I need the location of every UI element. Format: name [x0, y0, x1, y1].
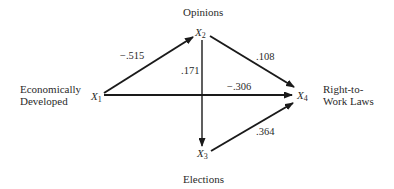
coef-x2-x4: .108: [256, 51, 274, 62]
x4-label-line1: Right-to-: [323, 83, 363, 95]
edge-x2-x4: [210, 36, 294, 87]
node-x2: X2: [195, 26, 206, 42]
x1-label-line2: Developed: [20, 95, 68, 107]
node-x3-index: 3: [204, 152, 208, 161]
node-x1: X1: [91, 90, 102, 106]
node-x3: X3: [197, 147, 208, 163]
edge-x3-x4: [211, 103, 293, 151]
node-x1-symbol: X: [91, 90, 98, 102]
node-x1-index: 1: [98, 95, 102, 104]
edge-x1-x2: [104, 37, 193, 93]
node-x4-index: 4: [304, 94, 308, 103]
node-x4-symbol: X: [297, 89, 304, 101]
x3-label: Elections: [183, 173, 224, 185]
coef-x1-x4: −.306: [227, 81, 251, 92]
coef-x3-x4: .364: [256, 126, 274, 137]
x1-label-line1: Economically: [20, 83, 81, 95]
coef-x1-x2: −.515: [120, 50, 144, 61]
x2-label: Opinions: [183, 6, 223, 18]
node-x3-symbol: X: [197, 147, 204, 159]
coef-x2-x3: .171: [181, 65, 199, 76]
node-x2-symbol: X: [195, 26, 202, 38]
x4-label-line2: Work Laws: [323, 95, 374, 107]
node-x2-index: 2: [202, 31, 206, 40]
node-x4: X4: [297, 89, 308, 105]
